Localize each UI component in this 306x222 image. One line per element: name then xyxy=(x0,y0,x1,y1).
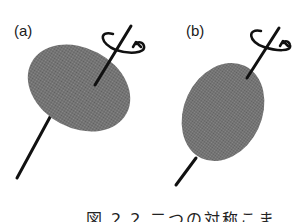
figure-caption: 図 2.2 二つの対称こま xyxy=(86,206,276,222)
oblate-body-a xyxy=(13,27,146,148)
figure-canvas xyxy=(0,0,306,222)
panel-label-b: (b) xyxy=(186,22,204,39)
panel-a-top xyxy=(13,26,146,178)
panel-b-top xyxy=(166,28,290,185)
prolate-body-b xyxy=(166,49,280,174)
rotation-axis-b-lower xyxy=(176,158,196,185)
panel-label-a: (a) xyxy=(14,22,32,39)
